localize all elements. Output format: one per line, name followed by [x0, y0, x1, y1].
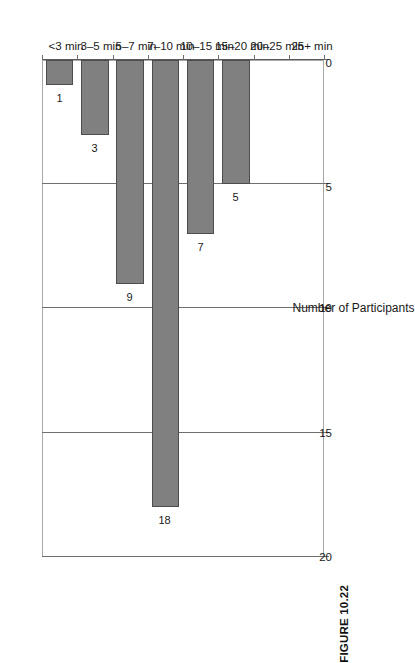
value-tick-label: 15 [319, 426, 332, 438]
category-tick [148, 55, 149, 60]
bar [152, 60, 179, 507]
bar-value-label: 1 [50, 92, 68, 103]
bar-value-label: 3 [85, 142, 103, 153]
gridline-10 [42, 307, 324, 308]
figure-caption: FIGURE 10.22 [338, 585, 350, 663]
bar [116, 60, 143, 284]
bar [222, 60, 249, 184]
value-axis-title: Number of Participants [347, 60, 360, 557]
category-tick [113, 55, 114, 60]
bar [187, 60, 214, 234]
category-tick [218, 55, 219, 60]
gridline-20 [42, 556, 324, 557]
bar-value-label: 18 [156, 514, 174, 525]
category-tick [254, 55, 255, 60]
bar-chart: 1391875 <3 min3–5 min5–7 min7–10 min10–1… [29, 33, 329, 557]
category-label: 25+ min [292, 40, 333, 52]
bar-value-label: 5 [226, 191, 244, 202]
bar-value-label: 7 [191, 241, 209, 252]
category-tick [289, 55, 290, 60]
gridline-15 [42, 431, 324, 432]
value-tick-label: 5 [326, 181, 332, 193]
value-tick-label: 0 [326, 56, 332, 68]
category-tick [77, 55, 78, 60]
category-tick [42, 55, 43, 60]
category-tick [183, 55, 184, 60]
gridline-5 [42, 183, 324, 184]
value-axis-title-text: Number of Participants [292, 302, 414, 315]
bar-value-label: 9 [121, 291, 139, 302]
bar [46, 60, 73, 85]
category-label: <3 min [48, 40, 83, 52]
bar [81, 60, 108, 135]
value-tick-label: 20 [319, 550, 332, 562]
